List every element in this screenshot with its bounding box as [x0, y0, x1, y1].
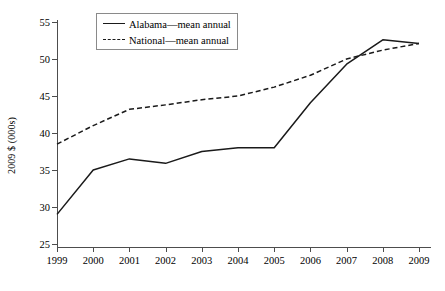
legend-item-alabama: Alabama—mean annual — [102, 16, 231, 32]
x-tick-mark — [310, 247, 311, 252]
y-tick-label: 45 — [16, 91, 50, 102]
series-line-alabama — [57, 40, 419, 215]
x-tick-mark — [93, 247, 94, 252]
x-tick-mark — [347, 247, 348, 252]
y-tick-label: 35 — [16, 165, 50, 176]
x-tick-mark — [274, 247, 275, 252]
x-tick-mark — [57, 247, 58, 252]
y-tick-mark — [52, 133, 57, 134]
y-tick-mark — [52, 96, 57, 97]
x-axis-line — [57, 247, 431, 248]
x-tick-mark — [238, 247, 239, 252]
y-tick-mark — [52, 170, 57, 171]
x-tick-mark — [202, 247, 203, 252]
legend-swatch-dashed-icon — [102, 35, 126, 45]
legend-label-alabama: Alabama—mean annual — [129, 19, 231, 30]
legend-swatch-solid-icon — [102, 19, 126, 29]
y-tick-label: 55 — [16, 17, 50, 28]
y-tick-label: 50 — [16, 54, 50, 65]
y-tick-mark — [52, 22, 57, 23]
y-tick-mark — [52, 59, 57, 60]
legend-item-national: National—mean annual — [102, 32, 229, 48]
y-tick-mark — [52, 207, 57, 208]
legend-label-national: National—mean annual — [129, 35, 229, 46]
x-tick-mark — [419, 247, 420, 252]
y-axis-line — [57, 20, 58, 248]
line-chart: 2009 $ (000s) 25303540455055 19992000200… — [0, 0, 445, 291]
y-tick-label: 25 — [16, 239, 50, 250]
x-tick-mark — [129, 247, 130, 252]
x-tick-label: 2009 — [394, 255, 444, 266]
series-line-national — [57, 43, 419, 144]
x-tick-mark — [383, 247, 384, 252]
x-tick-mark — [166, 247, 167, 252]
y-tick-mark — [52, 244, 57, 245]
legend: Alabama—mean annual National—mean annual — [96, 13, 238, 50]
y-tick-label: 30 — [16, 202, 50, 213]
y-tick-label: 40 — [16, 128, 50, 139]
